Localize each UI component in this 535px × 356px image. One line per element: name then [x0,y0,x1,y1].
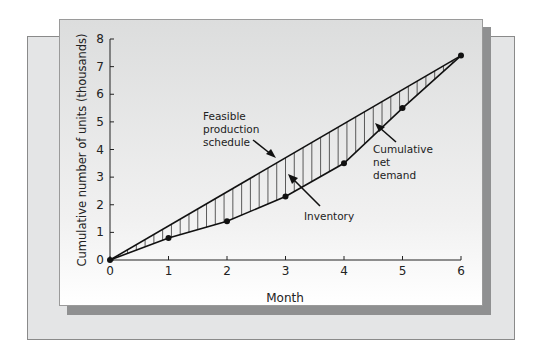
inventory-label: Inventory [304,210,354,222]
feasible-line-3: schedule [203,136,250,148]
y-tick-label: 0 [96,253,104,267]
inventory-annotation: Inventory [288,174,354,222]
arrowhead-icon [266,149,276,158]
x-tick-label: 0 [106,264,114,278]
feasible-line-1: Feasible [203,110,246,122]
y-tick-label: 5 [96,115,104,129]
x-tick-label: 1 [165,264,173,278]
y-tick-label: 7 [96,60,104,74]
x-axis-label: Month [266,291,304,305]
y-tick-label: 1 [96,225,104,239]
demand-arrow-icon [380,128,396,142]
y-tick-label: 2 [96,198,104,212]
y-axis-label: Cumulative number of units (thousands) [75,33,89,266]
x-tick-label: 5 [399,264,407,278]
feasible-line-2: production [203,123,259,135]
demand-annotation: Cumulative net demand [373,123,433,181]
x-tick-label: 2 [223,264,231,278]
chart-svg: 0123456780123456 Month Cumulative number… [0,0,535,356]
production-schedule-line [110,56,461,260]
demand-line-1: Cumulative [373,143,433,155]
demand-line-3: demand [373,169,416,181]
x-tick-label: 3 [282,264,290,278]
y-tick-label: 3 [96,170,104,184]
y-tick-label: 6 [96,87,104,101]
y-tick-label: 8 [96,32,104,46]
feasible-annotation: Feasible production schedule [203,110,276,158]
demand-line-2: net [373,156,390,168]
y-tick-label: 4 [96,143,104,157]
x-tick-label: 4 [340,264,348,278]
tick-labels: 0123456780123456 [96,32,465,278]
x-tick-label: 6 [457,264,465,278]
